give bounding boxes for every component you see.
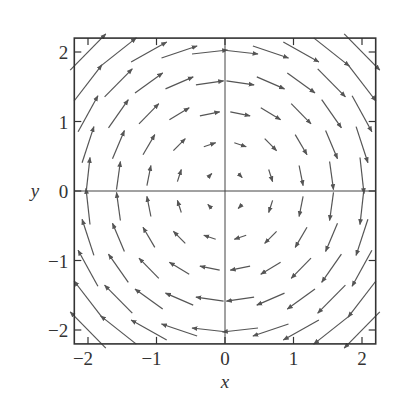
vector-arrow: [131, 42, 167, 62]
vector-arrow: [287, 73, 315, 93]
vector-arrow: [356, 219, 368, 255]
vector-arrow: [78, 250, 98, 286]
y-tick-label: 2: [59, 42, 69, 63]
vector-arrow: [82, 127, 94, 163]
vector-arrow: [230, 112, 250, 116]
vector-arrow: [330, 162, 334, 190]
vector-arrow: [257, 293, 285, 305]
vector-arrow: [222, 328, 258, 332]
vector-arrow: [299, 166, 303, 186]
vector-arrow: [162, 324, 198, 336]
vector-arrow: [86, 188, 90, 224]
vector-arrow: [204, 235, 216, 239]
vector-arrow: [291, 104, 311, 124]
y-tick-label: −2: [48, 320, 68, 341]
vector-arrow: [74, 65, 102, 101]
vector-arrow: [238, 174, 242, 178]
vector-arrow: [222, 50, 258, 54]
vector-arrow: [147, 166, 151, 186]
vector-arrow: [143, 227, 155, 247]
y-axis-label: y: [29, 180, 40, 201]
vector-arrow: [360, 188, 364, 224]
vector-arrow: [253, 324, 289, 336]
vector-arrow: [352, 250, 372, 286]
vector-arrow: [348, 65, 376, 101]
vector-arrow: [169, 262, 189, 274]
vector-arrow: [356, 127, 368, 163]
vector-arrow: [295, 135, 307, 155]
vector-arrow: [261, 262, 281, 274]
vector-arrow: [291, 258, 311, 278]
vector-arrow: [322, 100, 342, 128]
vector-arrow: [234, 235, 246, 239]
vector-arrow: [253, 46, 289, 58]
vector-arrow: [204, 143, 216, 147]
x-tick-label: −2: [73, 348, 93, 369]
vector-arrow: [147, 196, 151, 216]
vector-arrow: [192, 328, 228, 332]
vector-arrow: [330, 192, 334, 220]
vector-arrow: [314, 316, 350, 344]
vector-arrow: [162, 46, 198, 58]
vector-arrow: [86, 158, 90, 194]
vector-arrow: [314, 38, 350, 66]
vector-arrow: [257, 77, 285, 89]
vector-arrow: [230, 266, 250, 270]
vector-arrow: [117, 162, 121, 190]
vector-arrow: [196, 81, 224, 85]
y-tick-label: −1: [48, 251, 68, 272]
vector-field-chart: −2−1012−2−1012 x y: [0, 0, 402, 411]
vector-arrow: [135, 289, 163, 309]
vector-arrow: [109, 254, 129, 282]
vector-arrow: [109, 100, 129, 128]
vector-arrow: [173, 231, 185, 243]
vector-arrow: [299, 196, 303, 216]
vector-arrow: [352, 96, 372, 132]
vector-arrow: [101, 38, 137, 66]
vector-arrow: [269, 200, 273, 212]
vector-arrow: [177, 200, 181, 212]
axis-ticks: −2−1012−2−1012: [48, 38, 376, 369]
vector-arrow: [283, 320, 319, 340]
vector-arrow: [113, 223, 125, 251]
vector-arrow: [192, 50, 228, 54]
x-tick-label: 2: [357, 348, 367, 369]
vector-arrow: [348, 281, 376, 317]
vector-arrow: [208, 204, 212, 208]
x-axis-label: x: [220, 371, 230, 392]
vector-arrow: [287, 289, 315, 309]
vector-arrow: [283, 42, 319, 62]
vector-arrow: [78, 96, 98, 132]
vector-arrow: [82, 219, 94, 255]
vector-arrow: [234, 143, 246, 147]
vector-arrow: [265, 139, 277, 151]
vector-arrow: [238, 204, 242, 208]
vector-arrow: [166, 293, 194, 305]
vector-arrow: [117, 192, 121, 220]
y-tick-label: 1: [59, 112, 69, 133]
x-tick-label: 0: [220, 348, 230, 369]
vector-arrow: [318, 69, 346, 97]
vector-arrow: [101, 316, 137, 344]
vector-arrow: [166, 77, 194, 89]
vector-arrow: [200, 112, 220, 116]
vector-arrow: [135, 73, 163, 93]
vector-arrow: [169, 108, 189, 120]
vector-arrow: [326, 131, 338, 159]
vector-arrow: [226, 297, 254, 301]
vector-arrow: [269, 170, 273, 182]
vector-arrow: [105, 69, 133, 97]
vector-arrow: [173, 139, 185, 151]
vector-arrow: [143, 135, 155, 155]
vector-arrow: [105, 285, 133, 313]
vector-arrow: [360, 158, 364, 194]
vector-arrow: [139, 104, 159, 124]
x-tick-label: −1: [141, 348, 161, 369]
vector-arrow: [177, 170, 181, 182]
vector-arrow: [200, 266, 220, 270]
vector-arrow: [318, 285, 346, 313]
vector-arrow: [139, 258, 159, 278]
y-tick-label: 0: [59, 181, 69, 202]
vector-arrow: [261, 108, 281, 120]
vector-arrow: [295, 227, 307, 247]
